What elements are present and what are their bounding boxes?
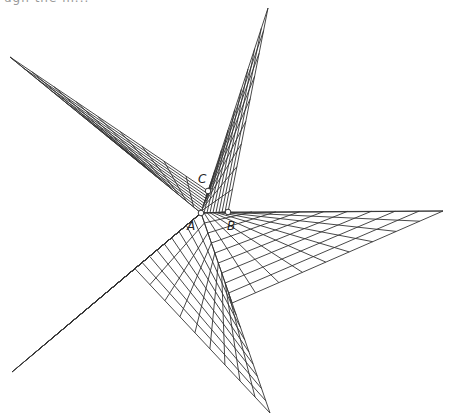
net-line <box>180 243 211 317</box>
net-line <box>219 212 373 241</box>
point-a <box>198 210 204 216</box>
net-line <box>208 8 268 191</box>
point-b <box>225 209 231 215</box>
net-line <box>76 102 156 177</box>
net-line <box>172 238 249 352</box>
net-line <box>142 263 266 401</box>
net-line <box>65 102 205 201</box>
net-line <box>157 250 258 376</box>
net-line <box>98 117 164 183</box>
net-line <box>232 303 270 413</box>
net-line <box>206 76 255 198</box>
net-line <box>225 28 261 212</box>
net-line <box>179 232 245 340</box>
label-a: A <box>186 219 195 233</box>
net-line <box>164 244 253 364</box>
net-line <box>79 113 204 203</box>
net-line <box>38 80 207 196</box>
net-line <box>228 8 268 212</box>
net-line <box>210 213 302 273</box>
label-b: B <box>227 219 235 233</box>
net-line <box>135 269 270 413</box>
net-line <box>120 131 171 188</box>
net-line <box>222 49 255 213</box>
net-line <box>51 91 205 199</box>
point-c <box>205 188 211 194</box>
net-line <box>12 213 201 372</box>
star-net-figure: A B C <box>0 0 449 420</box>
net-line <box>54 87 149 171</box>
label-c: C <box>198 172 207 186</box>
net-line <box>225 283 240 381</box>
net-line <box>195 253 215 333</box>
net-line <box>219 69 248 212</box>
net-line <box>10 57 201 213</box>
net-line <box>10 57 208 191</box>
net-line <box>24 68 207 193</box>
net-line <box>213 110 235 213</box>
